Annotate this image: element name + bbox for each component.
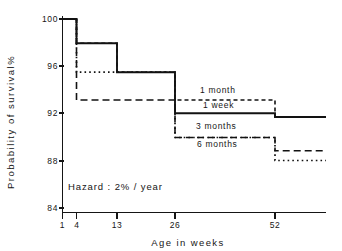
y-tick-label-96: 96: [47, 61, 58, 71]
series-label-1-month: 1 month: [200, 85, 236, 95]
survival-chart-figure: Probability of survival% 100 96 92 88 84…: [0, 0, 342, 251]
y-tick-label-84: 84: [47, 203, 58, 213]
series-path-3-months: [63, 19, 327, 117]
chart-canvas: Probability of survival% 100 96 92 88 84…: [0, 0, 342, 251]
y-axis-title: Probability of survival%: [5, 55, 16, 189]
series-label-1-week: 1 week: [203, 100, 234, 110]
y-tick-label-88: 88: [47, 156, 58, 166]
y-tick-label-92: 92: [47, 108, 58, 118]
series-path-1-month: [63, 19, 327, 117]
series-group: [63, 19, 327, 161]
x-tick-label-4: 4: [74, 220, 79, 230]
y-tick-label-100: 100: [42, 14, 58, 24]
x-tick-label-26: 26: [170, 220, 181, 230]
series-path-1-week: [63, 19, 327, 151]
hazard-annotation: Hazard : 2% / year: [68, 181, 163, 192]
x-tick-label-1: 1: [60, 220, 65, 230]
x-axis-title: Age in weeks: [151, 237, 224, 248]
series-path-6-months: [63, 19, 327, 161]
x-tick-label-13: 13: [112, 220, 123, 230]
series-label-6-months: 6 months: [197, 139, 238, 149]
series-label-3-months: 3 months: [196, 121, 237, 131]
x-tick-label-52: 52: [270, 220, 281, 230]
